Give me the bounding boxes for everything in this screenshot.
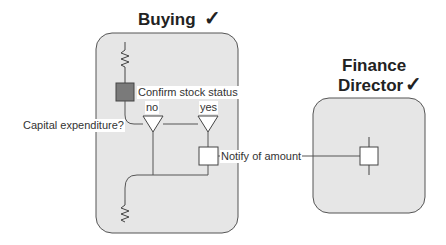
finance-title-line2: Director <box>338 76 403 95</box>
notify-amount-label: Notify of amount <box>220 150 302 163</box>
finance-director-title: Finance Director✓ <box>338 56 422 95</box>
checkmark-icon: ✓ <box>204 7 221 29</box>
no-label: no <box>145 101 159 114</box>
buying-title-text: Buying <box>138 10 196 29</box>
confirm-stock-task <box>116 83 134 101</box>
capital-expenditure-label: Capital expenditure? <box>22 119 125 132</box>
buying-lane <box>96 33 238 233</box>
buying-title: Buying ✓ <box>138 9 221 29</box>
yes-label: yes <box>199 101 218 114</box>
finance-receive-task <box>360 147 378 165</box>
checkmark-icon: ✓ <box>405 73 422 95</box>
confirm-stock-label: Confirm stock status <box>137 86 239 99</box>
notify-task <box>199 147 218 165</box>
